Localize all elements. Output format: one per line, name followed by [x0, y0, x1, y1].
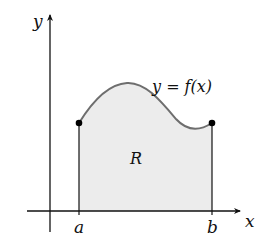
bound-b-label: b [207, 217, 218, 237]
region-r-fill [79, 83, 212, 211]
endpoint-b [209, 120, 216, 127]
region-label: R [129, 149, 142, 168]
area-under-curve-diagram: y x y = f(x) R a b [0, 0, 268, 247]
y-axis-label: y [32, 11, 43, 31]
bound-a-label: a [74, 217, 84, 237]
endpoint-a [76, 120, 83, 127]
x-axis-label: x [245, 211, 255, 231]
curve-label: y = f(x) [151, 77, 212, 96]
